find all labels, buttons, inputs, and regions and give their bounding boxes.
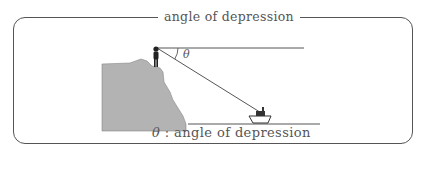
angle-label: θ [183,48,190,61]
boat-icon [249,107,271,123]
observer-icon [153,46,158,67]
caption: θ : angle of depression [152,125,311,140]
caption-symbol: θ [152,125,160,140]
caption-text: : angle of depression [160,125,311,140]
angle-of-depression-figure [0,0,430,177]
angle-arc [175,48,178,59]
cliff [102,59,186,131]
